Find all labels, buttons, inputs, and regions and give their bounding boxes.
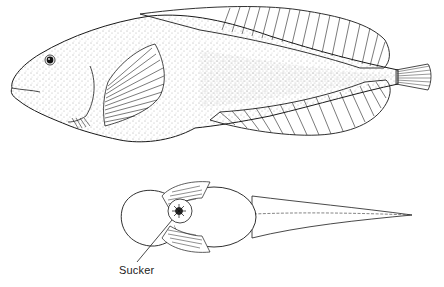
lateral-view xyxy=(11,7,431,142)
caudal-fin xyxy=(396,64,431,90)
ventral-view xyxy=(121,182,412,262)
ventral-tail xyxy=(252,196,412,238)
fish-illustration xyxy=(0,0,444,287)
sucker-center-icon xyxy=(172,204,186,218)
sucker-label: Sucker xyxy=(119,264,154,276)
